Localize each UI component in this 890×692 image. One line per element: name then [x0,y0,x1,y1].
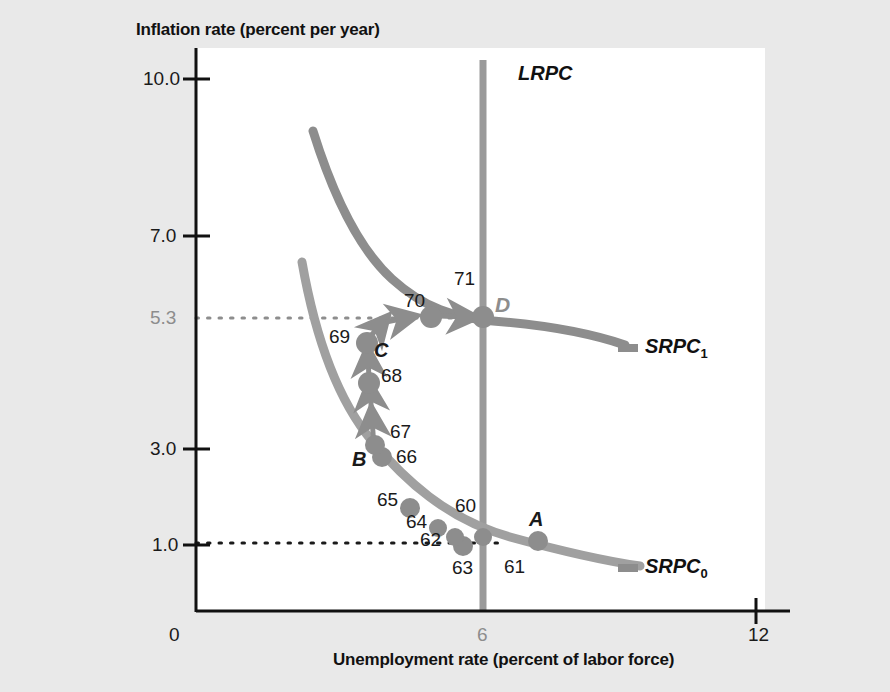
path-arrow-2 [370,392,372,416]
label-64: 64 [406,511,427,533]
srpc0-label: SRPC0 [645,555,708,581]
point-marker-71-D [472,306,494,328]
label-68: 68 [381,365,402,387]
label-67: 67 [390,421,411,443]
srpc0-label-text: SRPC [645,555,701,577]
point-marker-68 [358,372,380,394]
srpc1-curve [313,131,625,345]
label-66: 66 [396,446,417,468]
point-marker-61-A [528,531,548,551]
label-69: 69 [329,326,350,348]
point-marker-62 [446,528,464,546]
path-arrow-6 [440,316,466,317]
srpc1-label-sub: 1 [701,346,708,361]
label-60: 60 [455,495,476,517]
phillips-curve-figure: Inflation rate (percent per year) Unempl… [0,0,890,692]
srpc1-label: SRPC1 [645,335,708,361]
label-point-A: A [529,508,543,531]
lrpc-label: LRPC [518,62,572,85]
label-65: 65 [377,489,398,511]
srpc1-label-text: SRPC [645,335,701,357]
label-71: 71 [454,268,475,290]
label-point-D: D [495,293,510,317]
srpc0-curve [302,262,640,566]
srpc0-label-sub: 0 [701,566,708,581]
label-point-B: B [352,448,366,471]
path-arrow-5 [386,318,406,322]
point-marker-67-B [365,435,385,455]
label-63: 63 [452,557,473,579]
label-70: 70 [404,290,425,312]
label-point-C: C [374,339,388,362]
label-61: 61 [504,556,525,578]
chart-svg [0,0,890,692]
point-marker-60 [474,528,492,546]
